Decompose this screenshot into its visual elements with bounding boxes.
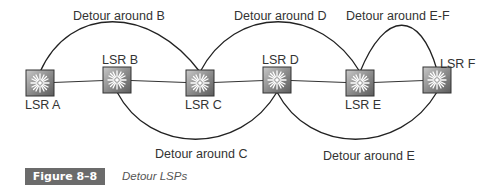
detour-lsp-diagram xyxy=(0,0,496,196)
detour-label-ef: Detour around E-F xyxy=(346,10,450,23)
detour-label-d: Detour around D xyxy=(234,10,326,23)
router-label-lsr-c: LSR C xyxy=(185,99,222,112)
detour-label-c: Detour around C xyxy=(155,148,247,161)
figure-number-badge: Figure 8–8 xyxy=(25,168,105,185)
detour-label-e: Detour around E xyxy=(323,150,415,163)
router-icon-lsr-e xyxy=(346,70,374,96)
router-label-lsr-e: LSR E xyxy=(345,99,381,112)
detour-around-ef-path xyxy=(360,25,437,72)
router-icon-lsr-a xyxy=(26,70,54,96)
router-icon-lsr-d xyxy=(263,67,291,93)
detour-label-b: Detour around B xyxy=(73,10,165,23)
router-label-lsr-f: LSR F xyxy=(440,58,475,71)
figure-caption: Detour LSPs xyxy=(122,170,187,182)
router-label-lsr-b: LSR B xyxy=(102,54,138,67)
router-icon-lsr-c xyxy=(186,70,214,96)
router-label-lsr-a: LSR A xyxy=(25,99,60,112)
primary-lsp-path xyxy=(40,80,437,83)
router-label-lsr-d: LSR D xyxy=(262,54,299,67)
router-icon-lsr-b xyxy=(103,67,131,93)
